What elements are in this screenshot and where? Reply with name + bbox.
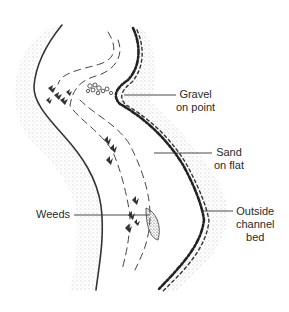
label-gravel-line2: on point	[176, 101, 215, 114]
label-sand-on-flat: Sand on flat	[214, 146, 244, 172]
label-sand-line2: on flat	[214, 159, 244, 172]
label-outside-line1: Outside	[236, 205, 275, 218]
label-sand-line1: Sand	[214, 146, 244, 159]
stream-channel-illustration	[0, 0, 289, 312]
left-bank	[15, 25, 102, 292]
label-gravel-line1: Gravel	[176, 88, 215, 101]
label-gravel-on-point: Gravel on point	[176, 88, 215, 114]
label-weeds: Weeds	[36, 208, 70, 221]
gravel-cluster	[86, 83, 112, 95]
right-bank	[115, 28, 228, 292]
label-outside-channel-bed: Outside channel bed	[236, 205, 275, 244]
label-outside-line2: channel	[236, 218, 275, 231]
label-weeds-line1: Weeds	[36, 208, 70, 221]
label-outside-line3: bed	[236, 231, 275, 244]
